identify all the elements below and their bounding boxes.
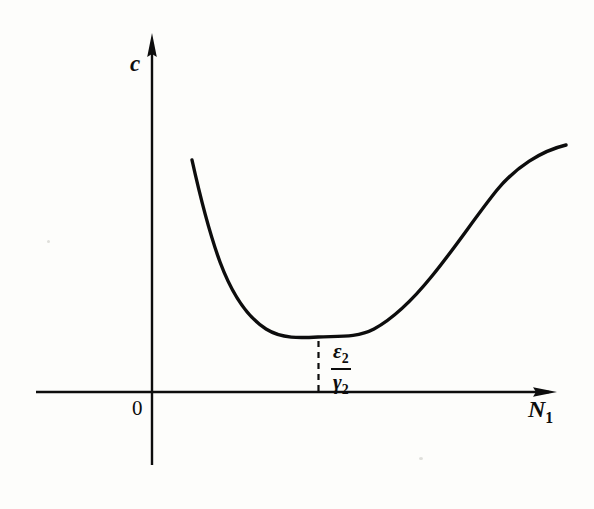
fraction-numerator-subscript: 2 [342,351,349,366]
x-axis-label-base: N [528,396,545,422]
fraction-numerator: ε2 [331,340,351,367]
cost-curve [192,145,566,338]
x-axis-label-subscript: 1 [545,409,553,426]
x-axis [36,387,557,397]
plot-canvas [0,0,594,509]
fraction-denominator-base: γ [333,370,342,394]
fraction-denominator: γ2 [331,371,351,398]
figure-container: c 0 N1 ε2 γ2 [0,0,594,509]
minimum-fraction-annotation: ε2 γ2 [331,340,351,397]
scan-speck [419,457,423,460]
origin-label: 0 [132,398,143,419]
x-axis-label: N1 [528,397,553,426]
y-axis [147,33,157,465]
scan-speck [47,240,50,243]
fraction-denominator-subscript: 2 [342,382,349,397]
fraction-numerator-base: ε [333,339,342,363]
y-axis-label: c [130,52,140,75]
y-axis-arrowhead [147,33,157,57]
